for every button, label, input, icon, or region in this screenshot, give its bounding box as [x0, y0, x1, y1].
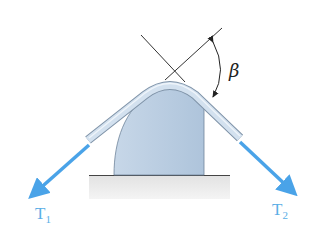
ground [89, 175, 230, 199]
angle-arc-beta [213, 42, 221, 97]
reference-lines [141, 28, 222, 82]
angle-label-beta: β [229, 60, 239, 81]
tension-label-t2: T2 [272, 200, 288, 221]
tension-label-t1: T1 [35, 204, 51, 225]
post [114, 88, 204, 175]
tension-arrow-left [36, 145, 89, 192]
tension-arrow-right [240, 142, 290, 189]
t1-main: T [35, 204, 45, 223]
t1-subscript: 1 [45, 213, 51, 225]
t2-subscript: 2 [282, 209, 288, 221]
t2-main: T [272, 200, 282, 219]
